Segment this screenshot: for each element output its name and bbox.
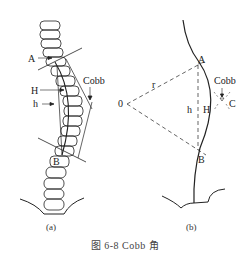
label-b-B: B	[198, 154, 205, 165]
label-b-h: h	[187, 104, 192, 115]
panel-a-labels: A H h B Cobb (a)	[28, 53, 105, 232]
sublabel-b: (b)	[186, 222, 197, 232]
figure-caption: 图 6-8 Cobb 角	[0, 237, 250, 252]
label-a-H: H	[31, 85, 38, 96]
label-b-r: r	[152, 79, 156, 90]
cobb-angle-figure: A H h B Cobb (a) A r 0 h H Cobb C B	[0, 0, 250, 259]
label-b-A: A	[198, 54, 206, 65]
panel-b-geometry	[127, 20, 230, 208]
label-b-H: H	[203, 104, 210, 115]
panel-b-labels: A r 0 h H Cobb C B (b)	[118, 54, 236, 232]
label-b-C: C	[229, 98, 236, 109]
label-a-cobb: Cobb	[83, 75, 105, 86]
label-a-A: A	[28, 53, 36, 64]
label-b-O: 0	[118, 98, 123, 109]
label-a-h: h	[33, 98, 38, 109]
panel-a-spine	[20, 21, 92, 214]
label-b-cobb: Cobb	[214, 75, 236, 86]
label-a-B: B	[53, 156, 60, 167]
sublabel-a: (a)	[46, 222, 56, 232]
